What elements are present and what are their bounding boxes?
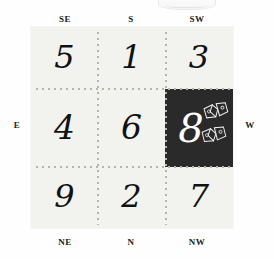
magic-square-panel: 5 1 3 4 6 8 <box>31 27 233 228</box>
grid-cell-ne[interactable]: 9 <box>31 167 98 228</box>
cell-number: 6 <box>121 111 142 144</box>
grid-divider-horizontal-2 <box>34 166 230 168</box>
direction-label-n: N <box>113 237 149 247</box>
ornament-group <box>200 99 230 157</box>
grid-cell-s[interactable]: 1 <box>98 27 165 89</box>
cell-number: 9 <box>54 180 74 212</box>
lo-shu-grid-figure: SE S SW E W NE N NW 5 1 3 4 6 8 <box>0 0 274 259</box>
bow-ornament-icon <box>202 100 229 121</box>
grid-cell-sw[interactable]: 3 <box>165 27 233 89</box>
grid-divider-horizontal-1 <box>34 88 230 90</box>
magic-square-cells: 5 1 3 4 6 8 <box>31 27 233 228</box>
direction-label-ne: NE <box>47 237 83 247</box>
grid-cell-n[interactable]: 2 <box>98 167 165 228</box>
direction-label-nw: NW <box>179 237 215 247</box>
direction-label-s: S <box>113 14 149 24</box>
grid-divider-vertical-2 <box>165 30 167 225</box>
grid-cell-w-highlighted[interactable]: 8 <box>165 89 233 167</box>
cell-number: 7 <box>189 180 209 212</box>
cell-number: 5 <box>54 41 74 73</box>
direction-label-w: W <box>241 120 259 130</box>
cell-number: 2 <box>121 180 141 212</box>
cell-number: 3 <box>189 41 209 73</box>
direction-label-e: E <box>8 120 26 130</box>
grid-cell-center[interactable]: 6 <box>98 89 165 167</box>
cell-number: 4 <box>54 111 75 144</box>
cell-number: 8 <box>178 108 203 148</box>
grid-cell-e[interactable]: 4 <box>31 89 98 167</box>
direction-label-sw: SW <box>179 14 215 24</box>
grid-cell-nw[interactable]: 7 <box>165 167 233 228</box>
direction-label-se: SE <box>47 14 83 24</box>
grid-cell-se[interactable]: 5 <box>31 27 98 89</box>
bow-ornament-icon <box>201 124 228 144</box>
grid-divider-vertical-1 <box>97 30 99 225</box>
cell-number: 1 <box>121 41 141 73</box>
top-cutoff-graphic <box>158 0 216 10</box>
